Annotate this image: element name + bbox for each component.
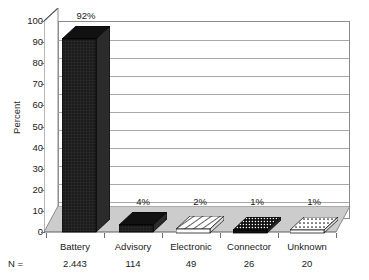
- bar-value-battery: 92%: [62, 10, 110, 21]
- category-tick: [104, 233, 105, 238]
- n-value-advisory: 114: [104, 258, 162, 269]
- bar-value-unknown: 1%: [290, 196, 338, 207]
- category-label-connector: Connector: [220, 241, 278, 252]
- bar-value-connector: 1%: [233, 196, 281, 207]
- plot-left-wall: [44, 8, 59, 233]
- bar-electronic: [176, 216, 224, 234]
- n-value-unknown: 20: [278, 258, 336, 269]
- category-tick: [220, 233, 221, 238]
- category-tick: [336, 233, 337, 238]
- n-value-battery: 2.443: [46, 258, 104, 269]
- category-label-advisory: Advisory: [104, 241, 162, 252]
- category-tick: [278, 233, 279, 238]
- y-axis-title: Percent: [11, 73, 22, 163]
- category-tick: [46, 233, 47, 238]
- category-label-electronic: Electronic: [162, 241, 220, 252]
- bar-chart: Percent 100 90 80 70 60 50 40 30 20 10: [0, 0, 369, 280]
- category-tick: [162, 233, 163, 238]
- bar-value-advisory: 4%: [119, 196, 167, 207]
- bar-connector: [233, 217, 281, 234]
- bar-advisory: [119, 212, 167, 233]
- bar-battery: [62, 26, 110, 233]
- bar-unknown: [290, 217, 338, 234]
- category-label-unknown: Unknown: [278, 241, 336, 252]
- bar-value-electronic: 2%: [176, 196, 224, 207]
- n-row-label: N =: [8, 258, 23, 269]
- category-label-battery: Battery: [46, 241, 104, 252]
- n-value-electronic: 49: [162, 258, 220, 269]
- n-value-connector: 26: [220, 258, 278, 269]
